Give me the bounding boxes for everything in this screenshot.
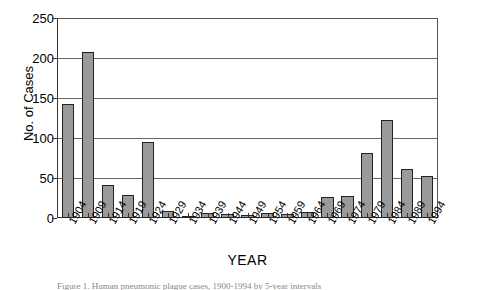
x-tick-slot: 1919	[118, 219, 138, 255]
x-tick-slot: 1904	[58, 219, 78, 255]
bar-slot	[258, 18, 278, 218]
bar-slot	[377, 18, 397, 218]
bar-slot	[218, 18, 238, 218]
bar-series	[58, 18, 437, 218]
x-tick-slot: 1914	[98, 219, 118, 255]
bar-slot	[158, 18, 178, 218]
x-tick-slot: 1909	[78, 219, 98, 255]
bar-slot	[178, 18, 198, 218]
bar-slot	[317, 18, 337, 218]
y-tick-label: 200	[2, 52, 54, 65]
y-tick-label: 100	[2, 132, 54, 145]
bar	[82, 52, 94, 218]
x-axis-ticks: 1904190919141919192419291934193919441949…	[58, 219, 437, 255]
bar-slot	[297, 18, 317, 218]
x-tick-slot: 1964	[297, 219, 317, 255]
bar-slot	[397, 18, 417, 218]
x-tick-slot: 1979	[357, 219, 377, 255]
x-tick-slot: 1944	[218, 219, 238, 255]
bar-slot	[417, 18, 437, 218]
x-tick-slot: 1939	[198, 219, 218, 255]
y-tick-label: 250	[2, 12, 54, 25]
x-tick-slot: 1934	[178, 219, 198, 255]
bar-slot	[98, 18, 118, 218]
x-tick-slot: 1969	[317, 219, 337, 255]
y-tick-label: 0	[2, 212, 54, 225]
figure-caption: Figure 1. Human pneumonic plague cases, …	[57, 281, 457, 290]
x-tick-slot: 1954	[258, 219, 278, 255]
x-tick-slot: 1974	[337, 219, 357, 255]
x-tick-slot: 1989	[397, 219, 417, 255]
x-tick-slot: 1959	[277, 219, 297, 255]
y-tick-label: 150	[2, 92, 54, 105]
bar-slot	[337, 18, 357, 218]
bar-slot	[78, 18, 98, 218]
bar-slot	[357, 18, 377, 218]
bar-slot	[58, 18, 78, 218]
x-tick-slot: 1984	[377, 219, 397, 255]
y-tick-label: 50	[2, 172, 54, 185]
bar-slot	[118, 18, 138, 218]
x-tick-slot: 1949	[238, 219, 258, 255]
x-tick-slot: 1924	[138, 219, 158, 255]
x-tick-slot: 1994	[417, 219, 437, 255]
bar-slot	[277, 18, 297, 218]
x-tick-slot: 1929	[158, 219, 178, 255]
bar-slot	[138, 18, 158, 218]
y-tick-mark	[52, 218, 57, 219]
bar-slot	[238, 18, 258, 218]
x-axis-title: YEAR	[57, 252, 438, 268]
bar-slot	[198, 18, 218, 218]
bar	[62, 104, 74, 218]
bar-chart-figure: No. of Cases 250200150100500 19041909191…	[0, 0, 479, 290]
